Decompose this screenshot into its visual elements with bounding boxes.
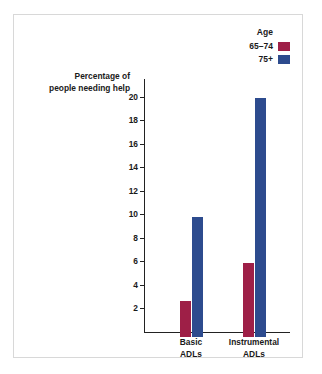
- legend-label-65-74: 65–74: [249, 41, 273, 51]
- y-tick-label: 8: [133, 233, 138, 243]
- y-axis-line: [144, 79, 145, 332]
- chart-legend: Age 65–74 75+: [249, 27, 290, 67]
- y-axis-title: Percentage of people needing help: [22, 71, 130, 94]
- y-tick-mark: [140, 144, 144, 145]
- y-tick-mark: [140, 191, 144, 192]
- legend-swatch-65-74: [278, 42, 290, 51]
- y-tick-label: 18: [129, 115, 138, 125]
- bar-basic-adls-75+: [192, 217, 203, 337]
- y-tick-label: 2: [133, 303, 138, 313]
- y-tick-label: 4: [133, 280, 138, 290]
- x-axis-line: [144, 332, 290, 333]
- legend-swatch-75-plus: [278, 55, 290, 64]
- y-tick-label: 14: [129, 162, 138, 172]
- legend-title: Age: [249, 27, 273, 37]
- y-tick-label: 20: [129, 92, 138, 102]
- x-category-label-line: Instrumental: [209, 337, 299, 349]
- y-tick-label: 10: [129, 209, 138, 219]
- x-category-label-line: ADLs: [209, 349, 299, 361]
- bar-instrumental-adls-65-74: [243, 263, 254, 337]
- y-tick-mark: [140, 285, 144, 286]
- y-tick-mark: [140, 120, 144, 121]
- y-tick-mark: [140, 261, 144, 262]
- bar-basic-adls-65-74: [180, 301, 191, 337]
- y-tick-mark: [140, 214, 144, 215]
- bar-instrumental-adls-75+: [255, 98, 266, 337]
- y-axis-title-line1: Percentage of: [22, 71, 130, 83]
- y-tick-mark: [140, 308, 144, 309]
- y-tick-label: 12: [129, 186, 138, 196]
- plot-area: 2468101214161820 BasicADLsInstrumentalAD…: [144, 79, 290, 337]
- y-tick-mark: [140, 167, 144, 168]
- y-tick-mark: [140, 238, 144, 239]
- chart-card: Age 65–74 75+ Percentage of people needi…: [13, 14, 303, 358]
- y-tick-label: 6: [133, 256, 138, 266]
- y-tick-mark: [140, 97, 144, 98]
- y-tick-label: 16: [129, 139, 138, 149]
- legend-item-75-plus: 75+: [249, 54, 290, 64]
- legend-item-65-74: 65–74: [249, 41, 290, 51]
- legend-label-75-plus: 75+: [259, 54, 273, 64]
- y-axis-title-line2: people needing help: [22, 83, 130, 95]
- x-category-label: InstrumentalADLs: [209, 337, 299, 360]
